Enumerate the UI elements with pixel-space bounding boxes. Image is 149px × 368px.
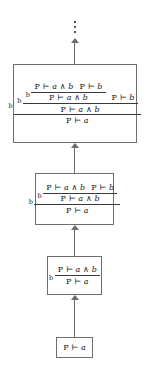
derivation-stack: b b b (0, 0, 149, 368)
rule-label: b (17, 98, 23, 105)
sequent-premise-extra: P ⊢ b (112, 93, 135, 102)
sequent-conclusion-inner: P ⊢ a ∧ b (61, 194, 100, 203)
sequent-premise-right: P ⊢ b (80, 82, 103, 91)
arrow-shaft (74, 230, 75, 256)
vertical-ellipsis-icon (74, 16, 76, 38)
arrow-box3-to-box2 (69, 225, 80, 256)
sequent-premise-left: P ⊢ a ∧ b (34, 82, 73, 91)
rule-label: b (8, 103, 14, 110)
derivation-box-two-step[interactable]: b b P ⊢ a ∧ b P ⊢ b (35, 173, 114, 225)
sequent-conclusion: P ⊢ a (66, 277, 89, 286)
sequent-conclusion-inner: P ⊢ a ∧ b (49, 93, 88, 102)
arrow-shaft (74, 148, 75, 173)
sequent-conclusion-outer: P ⊢ a (66, 116, 89, 125)
arrow-shaft (74, 43, 75, 64)
arrow-shaft (74, 300, 75, 337)
rule-application-outer: b b P ⊢ a ∧ b P ⊢ b (29, 183, 120, 215)
ellipsis-dot (74, 21, 76, 23)
derivation-box-one-step[interactable]: b P ⊢ a ∧ b P ⊢ a (47, 256, 102, 295)
sequent-premise-right: P ⊢ b (91, 183, 114, 192)
rule-label: b (26, 92, 32, 99)
rule-application-middle: b b P ⊢ a ∧ b (17, 82, 137, 114)
sequent-premise-left: P ⊢ a ∧ b (46, 183, 85, 192)
arrow-box2-to-box1 (69, 143, 80, 173)
arrow-leaf-to-box3 (69, 295, 80, 337)
arrow-box1-to-ellipsis (69, 38, 80, 64)
rule-application-inner: b P ⊢ a ∧ b P ⊢ b (26, 82, 106, 103)
ellipsis-dot (74, 26, 76, 28)
rule-label: b (37, 193, 43, 200)
derivation-box-three-step[interactable]: b b b (13, 64, 137, 143)
rule-application-inner: b P ⊢ a ∧ b P ⊢ b P ⊢ a ∧ b (37, 183, 117, 204)
sequent-leaf: P ⊢ a (63, 343, 86, 352)
rule-application: b P ⊢ a ∧ b P ⊢ a (49, 265, 100, 286)
derivation-box-leaf[interactable]: P ⊢ a (56, 337, 93, 358)
sequent-premise: P ⊢ a ∧ b (58, 265, 97, 274)
sequent-conclusion-outer: P ⊢ a (66, 206, 89, 215)
rule-label: b (49, 275, 55, 282)
rule-label: b (29, 199, 35, 206)
rule-application-outer: b b b (8, 82, 140, 126)
sequent-conclusion-middle: P ⊢ a ∧ b (61, 105, 100, 114)
ellipsis-dot (74, 31, 76, 33)
